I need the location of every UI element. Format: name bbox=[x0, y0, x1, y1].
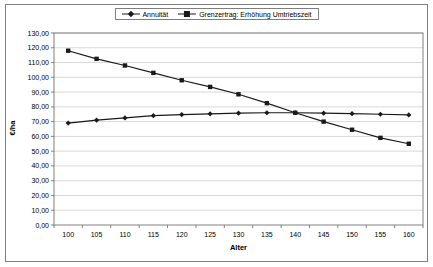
x-tick-label: 145 bbox=[318, 231, 330, 238]
y-tick-label: 70,00 bbox=[31, 118, 49, 125]
square-marker-icon bbox=[180, 78, 184, 82]
y-tick-label: 60,00 bbox=[31, 133, 49, 140]
square-marker-icon bbox=[151, 71, 155, 75]
plot-area: 0,0010,0020,0030,0040,0050,0060,0070,008… bbox=[6, 5, 429, 263]
diamond-marker-icon bbox=[208, 111, 213, 116]
legend-label-annuitaet: Annuität bbox=[142, 11, 168, 18]
diamond-marker-icon bbox=[264, 110, 269, 115]
square-marker-icon bbox=[208, 85, 212, 89]
x-tick-label: 160 bbox=[403, 231, 415, 238]
square-marker-icon bbox=[123, 63, 127, 67]
diamond-marker-icon bbox=[121, 10, 139, 18]
diamond-marker-icon bbox=[236, 111, 241, 116]
diamond-marker-icon bbox=[179, 112, 184, 117]
x-tick-label: 115 bbox=[148, 231, 159, 238]
diamond-marker-icon bbox=[349, 111, 354, 116]
square-marker-icon bbox=[293, 111, 297, 115]
diamond-marker-icon bbox=[122, 115, 127, 120]
x-tick-label: 125 bbox=[204, 231, 216, 238]
y-tick-label: 10,00 bbox=[31, 207, 49, 214]
legend-item-annuitaet: Annuität bbox=[121, 10, 168, 18]
y-tick-label: 130,00 bbox=[28, 30, 50, 37]
y-tick-label: 120,00 bbox=[28, 44, 50, 51]
y-tick-label: 110,00 bbox=[28, 59, 49, 66]
y-tick-label: 30,00 bbox=[31, 177, 49, 184]
square-marker-icon bbox=[94, 57, 98, 61]
diamond-marker-icon bbox=[378, 112, 383, 117]
y-axis-title: €/ha bbox=[7, 113, 19, 143]
x-tick-label: 100 bbox=[62, 231, 74, 238]
x-tick-label: 110 bbox=[119, 231, 130, 238]
square-marker-icon bbox=[178, 10, 196, 18]
diamond-marker-icon bbox=[406, 112, 411, 117]
x-axis-title: Alter bbox=[54, 243, 423, 255]
y-tick-label: 20,00 bbox=[31, 192, 49, 199]
square-marker-icon bbox=[66, 49, 70, 53]
x-tick-label: 120 bbox=[176, 231, 188, 238]
diamond-marker-icon bbox=[151, 113, 156, 118]
y-tick-label: 80,00 bbox=[31, 103, 49, 110]
square-marker-icon bbox=[407, 142, 411, 146]
y-tick-label: 100,00 bbox=[28, 74, 50, 81]
x-tick-label: 155 bbox=[375, 231, 387, 238]
x-tick-label: 135 bbox=[261, 231, 273, 238]
diamond-marker-icon bbox=[321, 111, 326, 116]
series-line-1 bbox=[68, 51, 409, 144]
x-tick-label: 105 bbox=[91, 231, 103, 238]
legend-label-grenzertrag: Grenzertrag: Erhöhung Umtriebszeit bbox=[199, 11, 311, 18]
square-marker-icon bbox=[321, 119, 325, 123]
y-tick-label: 40,00 bbox=[31, 162, 49, 169]
square-marker-icon bbox=[265, 101, 269, 105]
legend-item-grenzertrag: Grenzertrag: Erhöhung Umtriebszeit bbox=[178, 10, 311, 18]
square-marker-icon bbox=[350, 128, 354, 132]
square-marker-icon bbox=[236, 92, 240, 96]
chart-page: Annuität Grenzertrag: Erhöhung Umtriebsz… bbox=[0, 0, 433, 267]
square-marker-icon bbox=[378, 136, 382, 140]
y-tick-label: 90,00 bbox=[31, 89, 49, 96]
y-tick-label: 50,00 bbox=[31, 148, 49, 155]
y-tick-label: 0,00 bbox=[35, 222, 49, 229]
chart-frame: Annuität Grenzertrag: Erhöhung Umtriebsz… bbox=[5, 4, 428, 262]
chart-legend: Annuität Grenzertrag: Erhöhung Umtriebsz… bbox=[114, 8, 318, 20]
x-tick-label: 130 bbox=[233, 231, 245, 238]
x-tick-label: 140 bbox=[289, 231, 301, 238]
x-tick-label: 150 bbox=[346, 231, 358, 238]
